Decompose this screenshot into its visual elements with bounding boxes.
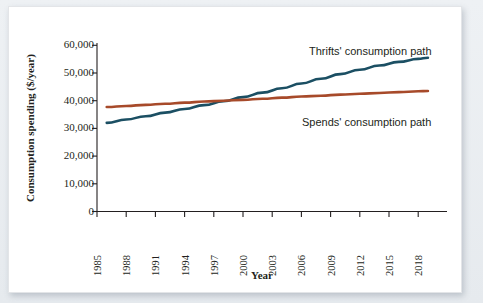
x-tick-label-2018: 2018: [413, 255, 424, 276]
x-tick-label-1985: 1985: [92, 255, 103, 276]
x-tick-marks: [97, 212, 418, 218]
y-tick-label-20000: 20,000: [64, 149, 95, 161]
x-tick-label-1997: 1997: [209, 255, 220, 276]
y-tick-label-50000: 50,000: [64, 66, 95, 78]
y-tick-label-60000: 60,000: [64, 38, 95, 50]
y-tick-label-30000: 30,000: [64, 121, 95, 133]
series-label-thrifts: Thrifts' consumption path: [309, 45, 432, 57]
line-chart: Consumption spending ($/year) 0 10,000 2…: [9, 7, 461, 292]
series-line-thrifts: [107, 58, 428, 123]
x-tick-label-1994: 1994: [180, 254, 191, 276]
x-tick-label-2006: 2006: [296, 255, 307, 276]
y-axis-title: Consumption spending ($/year): [24, 54, 37, 202]
series-label-spends: Spends' consumption path: [302, 116, 431, 128]
y-tick-label-40000: 40,000: [64, 94, 95, 106]
x-tick-label-1991: 1991: [150, 255, 161, 276]
y-tick-label-10000: 10,000: [64, 177, 95, 189]
x-tick-label-2015: 2015: [384, 255, 395, 276]
chart-svg: Consumption spending ($/year) 0 10,000 2…: [9, 7, 461, 292]
x-axis-title: Year: [251, 269, 273, 281]
x-tick-label-2012: 2012: [355, 255, 366, 276]
figure-card: Consumption spending ($/year) 0 10,000 2…: [8, 6, 462, 293]
x-tick-label-2000: 2000: [238, 255, 249, 276]
x-tick-label-1988: 1988: [121, 255, 132, 276]
x-tick-label-2009: 2009: [326, 255, 337, 276]
